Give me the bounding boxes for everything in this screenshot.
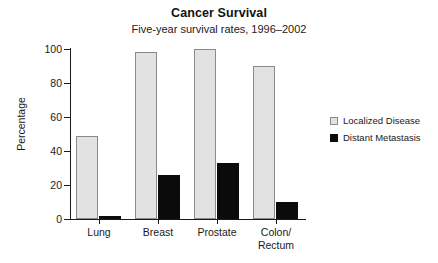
chart-title: Cancer Survival xyxy=(0,6,438,21)
x-tick-0 xyxy=(99,220,100,224)
bar-distant-metastasis-lung xyxy=(99,216,121,219)
bar-distant-metastasis-colon--rectum xyxy=(276,202,298,219)
legend-label-distant: Distant Metastasis xyxy=(343,132,421,143)
x-tick-2 xyxy=(217,220,218,224)
y-tick-0 xyxy=(64,219,70,220)
bar-localized-disease-prostate xyxy=(194,49,216,219)
bar-distant-metastasis-breast xyxy=(158,175,180,219)
y-tick-label-20: 20 xyxy=(22,180,62,190)
x-axis-spine xyxy=(70,219,306,220)
chart-legend: Localized DiseaseDistant Metastasis xyxy=(330,112,438,146)
x-tick-1 xyxy=(158,220,159,224)
x-axis-label-colon--rectum: Colon/ Rectum xyxy=(236,226,316,252)
y-tick-label-40: 40 xyxy=(22,146,62,156)
chart-subtitle: Five-year survival rates, 1996–2002 xyxy=(0,22,438,37)
legend-swatch-localized-icon xyxy=(330,117,338,125)
y-tick-label-60: 60 xyxy=(22,112,62,122)
y-tick-label-0: 0 xyxy=(22,214,62,224)
bar-localized-disease-breast xyxy=(135,52,157,219)
legend-item-localized: Localized Disease xyxy=(330,112,438,129)
y-tick-label-80: 80 xyxy=(22,78,62,88)
legend-item-distant: Distant Metastasis xyxy=(330,129,438,146)
bar-localized-disease-colon--rectum xyxy=(253,66,275,219)
bar-distant-metastasis-prostate xyxy=(217,163,239,219)
x-tick-3 xyxy=(276,220,277,224)
y-axis-tick-labels: 020406080100 xyxy=(14,0,62,263)
plot-area xyxy=(70,49,306,219)
chart-figure: Cancer Survival Five-year survival rates… xyxy=(0,0,438,263)
legend-label-localized: Localized Disease xyxy=(343,115,420,126)
chart-title-block: Cancer Survival Five-year survival rates… xyxy=(0,6,438,37)
bar-localized-disease-lung xyxy=(76,136,98,219)
legend-swatch-distant-icon xyxy=(330,134,338,142)
y-tick-label-100: 100 xyxy=(22,44,62,54)
